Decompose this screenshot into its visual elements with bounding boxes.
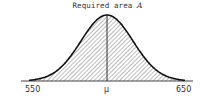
tick-label-mu: μ <box>104 85 109 94</box>
tick-label-550: 550 <box>25 85 40 94</box>
tick-label-650: 650 <box>176 85 191 94</box>
